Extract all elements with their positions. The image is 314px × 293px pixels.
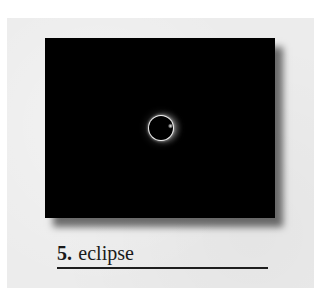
card-caption: 5. eclipse xyxy=(57,243,134,263)
card-panel: 5. eclipse xyxy=(7,18,314,288)
eclipse-photo xyxy=(45,38,275,218)
card-title: eclipse xyxy=(78,242,134,264)
diamond-ring-flare xyxy=(168,123,173,129)
caption-underline xyxy=(57,267,268,269)
card-number: 5. xyxy=(57,242,72,264)
